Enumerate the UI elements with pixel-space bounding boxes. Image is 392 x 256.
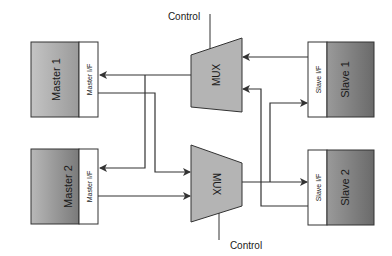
line-master1-to-muxbottom: [98, 93, 190, 172]
line-muxbottom-to-slave1: [270, 103, 307, 182]
slave-1-label: Slave 1: [339, 61, 351, 98]
mux-top-control-label: Control: [168, 11, 200, 22]
master-2-interface-label: Master I/F: [86, 171, 93, 203]
master-2-label: Master 2: [62, 165, 74, 208]
mux-top-label: MUX: [211, 64, 222, 87]
line-muxtop-to-master2: [100, 75, 145, 168]
slave-1-block: Slave I/F Slave 1: [308, 42, 374, 117]
mux-top: MUX Control: [168, 11, 242, 112]
line-slave2-to-muxtop: [243, 89, 308, 206]
slave-2-block: Slave I/F Slave 2: [308, 150, 374, 225]
mux-bottom-label: MUX: [211, 173, 222, 196]
master-2-block: Master 2 Master I/F: [31, 149, 98, 224]
mux-bottom: MUX Control: [191, 145, 262, 251]
master-1-block: Master 1 Master I/F: [31, 42, 98, 117]
mux-bottom-control-label: Control: [230, 240, 262, 251]
bus-interconnect-diagram: Master 1 Master I/F Master 2 Master I/F …: [0, 0, 392, 256]
master-1-label: Master 1: [50, 58, 62, 101]
master-1-interface-label: Master I/F: [86, 64, 93, 96]
slave-2-label: Slave 2: [339, 169, 351, 206]
slave-2-interface-label: Slave I/F: [315, 174, 322, 202]
slave-1-interface-label: Slave I/F: [315, 66, 322, 94]
